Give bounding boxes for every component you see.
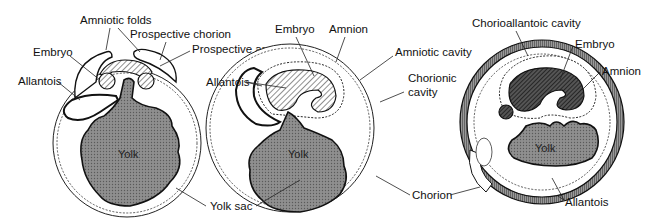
leader-chorion-2 — [450, 187, 480, 195]
label-amniotic-folds: Amniotic folds — [80, 14, 152, 26]
label-chorionic-cavity-line2: cavity — [408, 86, 438, 98]
label-yolk-sac: Yolk sac — [210, 200, 253, 212]
stage-3-yolk-label: Yolk — [535, 142, 556, 154]
label-embryo-1: Embryo — [33, 46, 73, 58]
label-allantois-1: Allantois — [18, 75, 62, 87]
label-chorion: Chorion — [412, 189, 452, 201]
label-prospective-chorion: Prospective chorion — [130, 28, 231, 40]
leader-chorionic-cavity — [380, 92, 404, 102]
stage-2-yolk-label: Yolk — [288, 148, 309, 160]
stage-3-allantois-stalk — [476, 138, 492, 166]
label-chorionic-cavity-line1: Chorionic — [408, 72, 457, 84]
label-chorioallantoic-cavity: Chorioallantoic cavity — [472, 17, 581, 29]
leader-yolk-sac-1 — [176, 188, 206, 206]
stage-1-embryo-right-curl — [138, 73, 154, 89]
stage-1-embryo-left-curl — [99, 73, 115, 89]
stage-3-embryo-tail — [499, 105, 513, 119]
stage-3-diagram: Yolk Chorioallantoic cavity Embryo Amnio… — [460, 17, 641, 208]
label-amnion-2: Amnion — [329, 23, 368, 35]
label-amnion-3: Amnion — [602, 65, 641, 77]
label-allantois-2: Allantois — [206, 76, 250, 88]
embryonic-membranes-figure: Yolk Amniotic folds Prospective chorion … — [0, 0, 653, 223]
label-embryo-3: Embryo — [575, 38, 615, 50]
leader-amnion-2 — [336, 37, 345, 62]
label-amniotic-cavity: Amniotic cavity — [395, 46, 472, 58]
label-embryo-2: Embryo — [275, 23, 315, 35]
label-allantois-3: Allantois — [565, 196, 609, 208]
leader-amniotic-folds-left — [106, 28, 110, 50]
diagram-canvas: Yolk Amniotic folds Prospective chorion … — [0, 0, 653, 223]
leader-amniotic-cavity — [360, 56, 393, 80]
stage-1-yolk-label: Yolk — [118, 148, 139, 160]
leader-chorion-1 — [376, 176, 410, 195]
